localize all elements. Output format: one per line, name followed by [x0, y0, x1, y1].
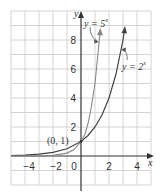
y-axis-arrow-icon	[78, 11, 84, 18]
x-tick-label: −2	[50, 161, 62, 172]
y-tick-label: 2	[70, 122, 76, 133]
x-tick-label: 2	[106, 161, 112, 172]
curve-2-label-base: y = 2	[121, 61, 143, 72]
curve-5-label-leader	[90, 27, 97, 41]
intercept-point	[80, 140, 83, 143]
y-tick-label: 4	[70, 93, 76, 104]
curve-2-label-exp: x	[142, 60, 146, 66]
curve-5-arrow-icon	[97, 28, 103, 36]
curve-5-label: y = 5x	[83, 17, 108, 29]
x-tick-label: 4	[134, 161, 140, 172]
curve-2-label: y = 2x	[121, 60, 146, 72]
curve-5-label-base: y = 5	[83, 18, 105, 29]
intercept-label: (0, 1)	[47, 135, 69, 147]
y-tick-label: 8	[70, 35, 76, 46]
x-tick-label: 0	[71, 161, 77, 172]
y-tick-label: 6	[70, 64, 76, 75]
x-tick-label: −4	[23, 161, 35, 172]
curve-5-label-exp: x	[104, 17, 108, 23]
x-axis-label: x	[147, 157, 153, 168]
curve-2-arrow-icon	[122, 26, 128, 34]
y-axis-label: y	[73, 8, 79, 19]
exponential-graph: −4 −2 0 2 4 2 4 6 8 x y y = 5x y = 2x (0…	[0, 0, 162, 196]
